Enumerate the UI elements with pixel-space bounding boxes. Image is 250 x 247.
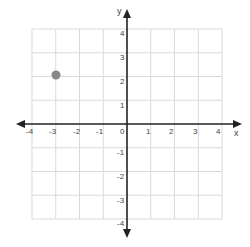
y-tick: -3 xyxy=(117,196,125,205)
y-tick: -2 xyxy=(117,172,125,181)
y-axis-down-arrow-icon xyxy=(123,229,131,238)
x-axis-left-arrow-icon xyxy=(16,120,25,128)
data-point[interactable] xyxy=(52,71,61,80)
y-tick: 1 xyxy=(120,101,125,110)
y-tick: -4 xyxy=(117,219,125,228)
x-tick: -4 xyxy=(26,127,34,136)
y-tick: 3 xyxy=(120,53,125,62)
y-axis-up-arrow-icon xyxy=(123,9,131,18)
coordinate-plane: x y -4 -3 -2 -1 0 1 2 3 4 4 3 2 1 -1 -2 … xyxy=(0,0,250,247)
x-tick: 3 xyxy=(193,127,198,136)
x-axis-right-arrow-icon xyxy=(233,120,242,128)
x-tick: -3 xyxy=(49,127,57,136)
y-tick: -1 xyxy=(117,148,125,157)
x-tick: -2 xyxy=(73,127,81,136)
x-axis-label: x xyxy=(234,128,239,138)
y-tick: 4 xyxy=(120,29,125,38)
x-tick: 4 xyxy=(216,127,221,136)
y-axis-label: y xyxy=(117,6,122,16)
x-tick: -1 xyxy=(96,127,104,136)
x-tick: 1 xyxy=(146,127,151,136)
y-tick: 2 xyxy=(120,77,125,86)
x-tick: 0 xyxy=(120,127,125,136)
x-tick-labels: -4 -3 -2 -1 0 1 2 3 4 xyxy=(26,127,221,136)
x-tick: 2 xyxy=(169,127,174,136)
